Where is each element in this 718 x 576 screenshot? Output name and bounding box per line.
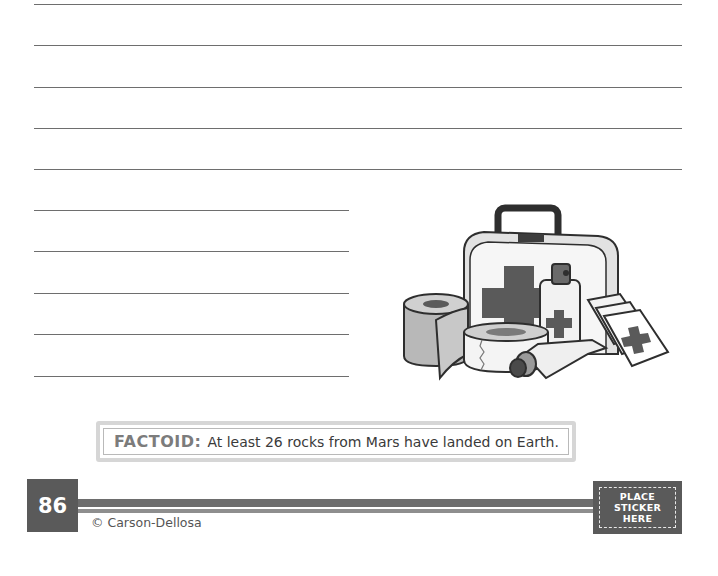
writing-line (34, 128, 682, 129)
writing-line-short (34, 334, 349, 335)
sticker-dashed-frame: PLACE STICKER HERE (599, 487, 676, 528)
page-number-box: 86 (27, 479, 78, 532)
factoid-inner-frame: FACTOID: At least 26 rocks from Mars hav… (103, 428, 569, 455)
copyright-text: © Carson-Dellosa (91, 515, 202, 530)
sticker-text-line: STICKER (614, 502, 661, 513)
first-aid-kit-illustration (392, 204, 672, 384)
factoid-text: At least 26 rocks from Mars have landed … (207, 434, 558, 450)
writing-line-short (34, 376, 349, 377)
page-number: 86 (38, 494, 67, 518)
footer-bar-lower (70, 509, 600, 513)
writing-line-short (34, 210, 349, 211)
footer-bar (70, 499, 600, 507)
gauze-roll-icon (404, 294, 468, 378)
writing-line-short (34, 293, 349, 294)
writing-line (34, 169, 682, 170)
sticker-placeholder: PLACE STICKER HERE (593, 481, 682, 534)
writing-line (34, 87, 682, 88)
factoid-box: FACTOID: At least 26 rocks from Mars hav… (96, 421, 576, 462)
sticker-text-line: HERE (623, 513, 652, 524)
sticker-text-line: PLACE (620, 491, 655, 502)
writing-line (34, 4, 682, 5)
factoid-label: FACTOID: (114, 432, 201, 451)
writing-line (34, 45, 682, 46)
writing-line-short (34, 251, 349, 252)
